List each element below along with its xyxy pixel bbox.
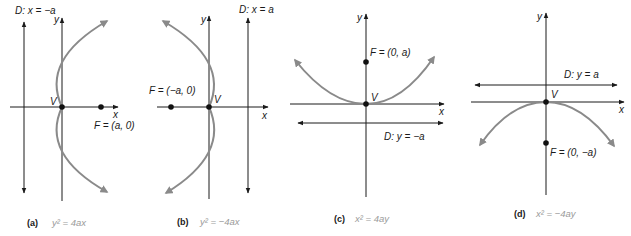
caption-letter: (c) bbox=[334, 214, 345, 224]
focus-point bbox=[168, 104, 174, 110]
caption-letter: (b) bbox=[177, 217, 189, 227]
vertex-point bbox=[543, 99, 549, 105]
caption-equation: y² = −4ax bbox=[199, 216, 241, 227]
focus-point bbox=[98, 104, 104, 110]
y-axis-label: y bbox=[356, 12, 363, 23]
focus-label: F = (a, 0) bbox=[94, 120, 135, 131]
vertex-label: V bbox=[371, 92, 379, 103]
y-axis-label: y bbox=[53, 14, 60, 25]
caption-letter: (d) bbox=[514, 209, 526, 219]
directrix-label: D: y = −a bbox=[384, 131, 425, 142]
directrix-label: D: y = a bbox=[564, 69, 599, 80]
parabola-curve bbox=[480, 102, 614, 146]
caption-equation: x² = −4ay bbox=[535, 208, 577, 219]
vertex-label: V bbox=[551, 89, 559, 100]
vertex-label: V bbox=[50, 96, 58, 107]
parabola-figure: D: x = −a y V x F = (a, 0) (a) y² = 4ax … bbox=[0, 0, 631, 236]
vertex-point bbox=[363, 101, 369, 107]
directrix-label: D: x = a bbox=[239, 4, 274, 15]
directrix-label: D: x = −a bbox=[15, 5, 56, 16]
panel-a: D: x = −a y V x F = (a, 0) (a) y² = 4ax bbox=[10, 5, 135, 228]
vertex-point bbox=[206, 104, 212, 110]
vertex-label: V bbox=[214, 94, 222, 105]
caption-equation: y² = 4ax bbox=[51, 217, 87, 228]
x-axis-label: x bbox=[618, 104, 625, 115]
caption-letter: (a) bbox=[27, 218, 38, 228]
vertex-point bbox=[59, 104, 65, 110]
focus-label: F = (−a, 0) bbox=[149, 85, 196, 96]
y-axis-label: y bbox=[536, 11, 543, 22]
panel-b: D: x = a y F = (−a, 0) V x (b) y² = −4ax bbox=[149, 4, 274, 227]
y-axis-label: y bbox=[200, 14, 207, 25]
focus-point bbox=[543, 140, 549, 146]
panel-d: y D: y = a V x F = (0, −a) (d) x² = −4ay bbox=[471, 11, 625, 219]
caption-equation: x² = 4ay bbox=[354, 213, 390, 224]
focus-label: F = (0, a) bbox=[370, 47, 411, 58]
x-axis-label: x bbox=[261, 110, 268, 121]
x-axis-label: x bbox=[438, 106, 445, 117]
focus-label: F = (0, −a) bbox=[550, 147, 597, 158]
focus-point bbox=[363, 59, 369, 65]
x-axis-label: x bbox=[112, 109, 119, 120]
panel-c: y F = (0, a) V x D: y = −a (c) x² = 4ay bbox=[290, 12, 445, 224]
